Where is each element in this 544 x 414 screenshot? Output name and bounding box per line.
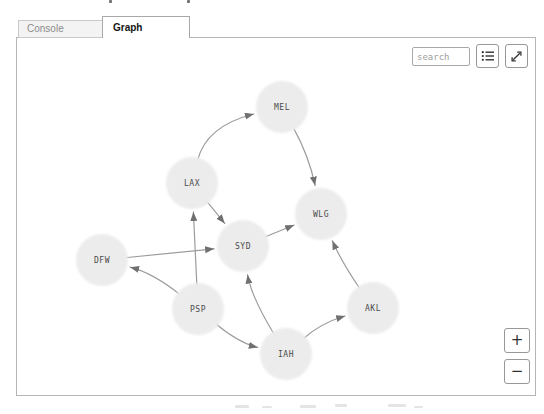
expand-button[interactable] xyxy=(505,44,528,68)
graph-edge-PSP-IAH xyxy=(216,324,258,348)
graph-panel: MELLAXWLGSYDDFWPSPAKLIAH xyxy=(16,37,536,396)
scan-artifact xyxy=(335,404,347,407)
graph-edge-LAX-MEL xyxy=(197,114,253,161)
tab-graph-label: Graph xyxy=(113,23,142,33)
graph-edge-SYD-WLG xyxy=(264,225,294,237)
graph-edge-IAH-AKL xyxy=(303,316,345,339)
graph-edge-PSP-DFW xyxy=(130,267,180,294)
graph-node-AKL[interactable]: AKL xyxy=(347,282,399,334)
zoom-out-button[interactable]: − xyxy=(504,359,530,384)
search-input[interactable] xyxy=(412,47,470,66)
zoom-controls: + − xyxy=(504,328,530,384)
scan-artifact xyxy=(300,405,316,408)
graph-node-DFW[interactable]: DFW xyxy=(76,234,128,286)
list-button[interactable] xyxy=(476,44,499,68)
graph-node-SYD[interactable]: SYD xyxy=(217,220,269,272)
node-label: DFW xyxy=(94,256,110,265)
graph-node-IAH[interactable]: IAH xyxy=(260,328,312,380)
scan-artifact xyxy=(262,406,272,408)
node-label: WLG xyxy=(313,210,329,219)
graph-node-MEL[interactable]: MEL xyxy=(256,81,308,133)
node-label: SYD xyxy=(235,242,251,251)
graph-node-WLG[interactable]: WLG xyxy=(295,188,347,240)
list-icon xyxy=(481,50,495,62)
graph-edge-IAH-SYD xyxy=(248,275,275,335)
graph-node-LAX[interactable]: LAX xyxy=(166,157,218,209)
expand-icon xyxy=(510,50,523,63)
scan-artifact xyxy=(388,404,406,407)
tab-console[interactable]: Console xyxy=(18,20,103,38)
node-label: PSP xyxy=(190,305,206,314)
zoom-in-button[interactable]: + xyxy=(504,328,530,353)
graph-node-PSP[interactable]: PSP xyxy=(172,283,224,335)
graph-edge-MEL-WLG xyxy=(293,127,315,185)
scan-artifact xyxy=(187,0,190,3)
tab-console-label: Console xyxy=(27,24,64,34)
page: Console Graph MELLAXWLGSYDDFWPSPAKLIAH xyxy=(0,0,544,414)
graph-canvas[interactable]: MELLAXWLGSYDDFWPSPAKLIAH xyxy=(17,38,535,395)
graph-toolbar xyxy=(412,44,528,68)
node-label: IAH xyxy=(278,350,294,359)
scan-artifact xyxy=(235,405,249,408)
graph-edge-LAX-SYD xyxy=(206,201,224,224)
node-label: MEL xyxy=(274,103,290,112)
graph-edge-PSP-LAX xyxy=(193,212,197,286)
tab-graph[interactable]: Graph xyxy=(102,16,190,38)
graph-edge-AKL-WLG xyxy=(332,241,360,289)
node-label: LAX xyxy=(184,179,200,188)
scan-artifact xyxy=(109,0,112,3)
scan-artifact xyxy=(414,406,423,408)
graph-edge-DFW-SYD xyxy=(125,249,214,258)
node-label: AKL xyxy=(365,304,381,313)
